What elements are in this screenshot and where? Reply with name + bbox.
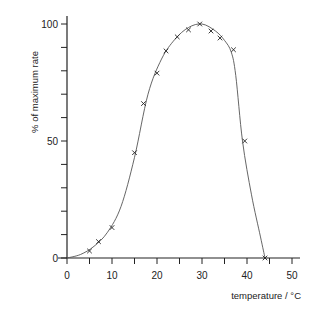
x-axis: 01020304050 <box>58 258 300 281</box>
y-axis-title: % of maximum rate <box>29 51 40 133</box>
x-tick-label: 0 <box>64 270 70 281</box>
data-point-marker <box>186 28 191 33</box>
y-tick-label: 100 <box>41 19 58 30</box>
data-point-marker <box>164 49 169 54</box>
data-point-marker <box>132 150 137 155</box>
data-point-marker <box>242 139 247 144</box>
x-tick-label: 50 <box>286 270 298 281</box>
data-point-marker <box>96 239 101 244</box>
x-tick-label: 10 <box>106 270 118 281</box>
data-point-marker <box>231 47 236 52</box>
x-tick-label: 40 <box>241 270 253 281</box>
y-axis: 050100 <box>41 16 67 264</box>
x-tick-label: 30 <box>196 270 208 281</box>
x-tick-label: 20 <box>151 270 163 281</box>
data-point-marker <box>218 36 223 41</box>
enzyme-rate-chart: 050100 01020304050 % of maximum rate tem… <box>0 0 317 313</box>
data-point-marker <box>141 101 146 106</box>
y-tick-label: 0 <box>52 253 58 264</box>
x-axis-title: temperature / °C <box>231 290 301 301</box>
data-point-marker <box>175 35 180 40</box>
data-points <box>87 22 267 261</box>
data-point-marker <box>209 29 214 34</box>
y-tick-label: 50 <box>47 136 59 147</box>
fitted-curve <box>67 24 265 258</box>
